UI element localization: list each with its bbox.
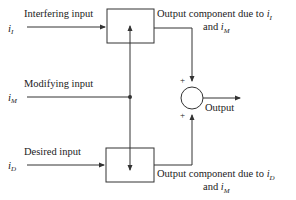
desired-input-symbol: iD — [8, 159, 16, 175]
top-plus-sign: + — [180, 76, 185, 85]
bottom-output-component-label-line2: and iM — [203, 181, 230, 197]
bottom-plus-sign: + — [180, 111, 185, 120]
desired-input-label: Desired input — [24, 146, 81, 158]
top-output-component-label-line2: and iM — [203, 21, 230, 37]
summing-junction — [181, 87, 203, 109]
interfering-input-symbol: iI — [8, 22, 13, 38]
output-label: Output — [205, 102, 234, 114]
modifying-input-label: Modifying input — [24, 78, 93, 90]
junction-dot — [128, 95, 132, 99]
interfering-input-label: Interfering input — [24, 8, 93, 20]
modifying-input-symbol: iM — [8, 91, 17, 107]
